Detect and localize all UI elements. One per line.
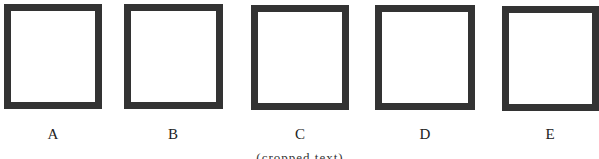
option-b-square [124,4,223,109]
option-c-label: C [280,125,320,143]
option-b-label: B [153,125,193,143]
option-d-label: D [405,125,445,143]
option-a-label: A [33,125,73,143]
option-c-square [251,5,349,110]
option-e-square [502,6,599,111]
option-d-square [375,5,475,110]
figure-caption: (cropped text) [200,150,400,159]
answer-options-figure: A B C D E (cropped text) [0,0,599,159]
option-e-label: E [530,125,570,143]
option-a-square [4,4,102,109]
figure-caption-cropped: (cropped text) [200,150,400,159]
